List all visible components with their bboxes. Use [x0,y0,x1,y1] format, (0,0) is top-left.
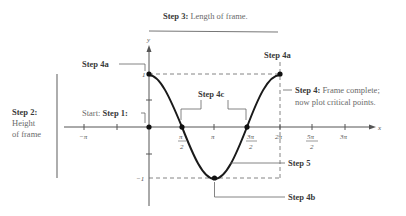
tick-label-neg-pi: −π [79,133,88,141]
step4c-leader-right [228,100,246,120]
step5-label: Step 5 [288,158,310,168]
step2-line2: of frame [12,129,41,139]
y-axis-label: y [146,36,151,44]
tick-label-3pi-over-2-num: 3π [246,133,255,141]
x-axis-arrow-icon [369,125,376,130]
step4-label: Step 4: Frame complete; [295,85,380,95]
cosine-graph-diagram: Step 3: Length of frame. Step 2: Height … [0,0,406,216]
critical-point-zero-3pi-over-2 [244,124,249,129]
step1-leader [141,113,145,123]
step2-label: Step 2: [12,107,37,117]
start-point-origin [146,124,151,129]
tick-label-y-neg1: −1 [136,175,144,183]
tick-label-pi-over-2-den: 2 [180,143,184,151]
step4b-leader [215,182,286,197]
step4a-left-label: Step 4a [82,59,109,69]
tick-label-pi: π [211,133,215,141]
step4c-label: Step 4c [198,89,224,99]
step4-line2: now plot critical points. [295,97,376,107]
step4c-leader-left [181,100,201,120]
step2-line1: Height [12,118,36,128]
tick-label-3pi-over-2-den: 2 [249,143,253,151]
x-axis-label: x [377,124,382,132]
critical-point-zero-pi-over-2 [179,124,184,129]
frame-length-bracket [149,31,278,32]
tick-label-5pi-over-2-den: 2 [310,143,314,151]
step4a-left-leader [119,64,145,71]
step4a-right-label: Step 4a [264,50,291,60]
tick-label-2pi: 2π [275,133,283,141]
tick-label-5pi-over-2-num: 5π [307,133,315,141]
tick-label-pi-over-2-num: π [179,133,183,141]
critical-point-max-start [146,71,151,76]
critical-point-min [212,175,217,180]
step3-label: Step 3: Length of frame. [163,11,248,21]
y-axis-arrow-icon [147,45,152,52]
tick-label-y-1: 1 [142,71,146,79]
critical-point-max-end [277,71,282,76]
tick-label-3pi: 3π [339,133,348,141]
step1-label: Start: Step 1: [82,108,128,118]
step4b-label: Step 4b [288,192,315,202]
